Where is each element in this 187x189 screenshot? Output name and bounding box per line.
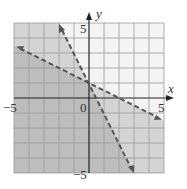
origin-label: 0 — [80, 100, 87, 115]
x-axis-label: x — [167, 81, 174, 96]
x-max-tick: 5 — [158, 100, 165, 115]
y-min-tick: −5 — [73, 167, 87, 182]
y-axis-arrow-icon — [86, 12, 92, 20]
graph: y x 5 −5 −5 5 0 — [0, 0, 187, 189]
y-max-tick: 5 — [80, 21, 87, 36]
x-min-tick: −5 — [3, 100, 17, 115]
y-axis-label: y — [94, 6, 102, 21]
